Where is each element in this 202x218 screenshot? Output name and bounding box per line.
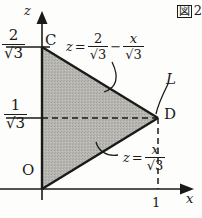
fraction-denominator: √3: [145, 157, 166, 172]
fraction-numerator: 1: [9, 98, 23, 114]
fraction-2-over-sqrt3: 2 √3: [88, 32, 109, 61]
figure-2-diagram: 図2 z x 1 O 2 √3 1 √3 C D L z = 2 √3 − x: [0, 0, 202, 218]
figure-caption-mark: 図: [177, 5, 192, 18]
fraction-denominator: √3: [123, 46, 144, 61]
equals-sign: =: [75, 40, 86, 53]
equation-lower-boundary: z = x √3: [123, 143, 165, 172]
figure-caption: 図2: [177, 4, 202, 18]
fraction-denominator: √3: [2, 44, 25, 61]
equation-lhs: z: [123, 151, 130, 164]
equation-lhs: z: [66, 40, 73, 53]
equation-row: z = x √3: [123, 143, 165, 172]
z-axis-tick-label-1-over-sqrt3: 1 √3: [4, 98, 27, 131]
fraction-numerator: x: [149, 143, 160, 157]
z-axis-tick-label-2-over-sqrt3: 2 √3: [2, 28, 25, 61]
x-axis-label: x: [186, 192, 193, 205]
z-axis-arrowhead: [37, 11, 48, 24]
equation-row: z = 2 √3 − x √3: [66, 32, 144, 61]
figure-caption-number: 2: [194, 3, 202, 18]
fraction-denominator: √3: [88, 46, 109, 61]
equals-sign: =: [132, 151, 143, 164]
fraction-numerator: 2: [7, 28, 21, 44]
fraction-numerator: x: [128, 32, 139, 46]
fraction-1-over-sqrt3: 1 √3: [4, 98, 27, 131]
point-label-D: D: [164, 107, 176, 122]
x-axis-tick-label-1: 1: [152, 196, 160, 209]
origin-label: O: [22, 163, 34, 178]
minus-sign: −: [110, 40, 121, 53]
z-axis-label: z: [24, 4, 31, 17]
point-label-C: C: [45, 33, 56, 48]
line-label-L: L: [166, 72, 176, 87]
fraction-denominator: √3: [4, 114, 27, 131]
fraction-x-over-sqrt3: x √3: [145, 143, 166, 172]
fraction-2-over-sqrt3: 2 √3: [2, 28, 25, 61]
equation-upper-boundary: z = 2 √3 − x √3: [66, 32, 144, 61]
fraction-x-over-sqrt3: x √3: [123, 32, 144, 61]
fraction-numerator: 2: [92, 32, 104, 46]
